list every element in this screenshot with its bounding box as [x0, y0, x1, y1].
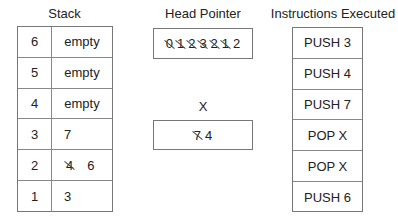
struck-value: 1 [222, 36, 229, 51]
stack-value-overwritten: 4 6 [52, 150, 112, 180]
stack-row: 2 4 6 [18, 150, 112, 181]
stack-row: 6 empty [18, 27, 112, 58]
stack-index: 4 [18, 89, 52, 119]
stack-title: Stack [17, 6, 112, 21]
head-pointer-box: 0 1 2 3 2 1 2 [153, 28, 253, 59]
instruction-row: POP X [293, 120, 362, 151]
current-value: 2 [233, 36, 240, 51]
struck-value: 3 [199, 36, 206, 51]
struck-value: 7 [194, 128, 201, 143]
struck-value: 2 [188, 36, 195, 51]
struck-value: 0 [166, 36, 173, 51]
stack-table: 6 empty 5 empty 4 empty 3 7 2 4 6 1 3 [17, 26, 113, 212]
struck-value: 4 [66, 158, 73, 173]
instruction-row: PUSH 7 [293, 90, 362, 121]
x-register-title: X [153, 99, 253, 114]
instruction-row: PUSH 3 [293, 28, 362, 59]
x-register-box: 7 4 [153, 120, 253, 150]
stack-value: empty [52, 27, 112, 57]
stack-index: 1 [18, 181, 52, 212]
stack-index: 2 [18, 150, 52, 180]
struck-value: 1 [177, 36, 184, 51]
stack-value: empty [52, 89, 112, 119]
instruction-row: PUSH 6 [293, 182, 362, 213]
stack-row: 5 empty [18, 58, 112, 89]
stack-value: 7 [52, 119, 112, 149]
stack-row: 4 empty [18, 89, 112, 120]
stack-value: 3 [52, 181, 112, 212]
instructions-title: Instructions Executed [270, 6, 396, 21]
stack-row: 3 7 [18, 119, 112, 150]
struck-value: 2 [211, 36, 218, 51]
stack-index: 5 [18, 58, 52, 88]
stack-value: empty [52, 58, 112, 88]
stack-row: 1 3 [18, 181, 112, 212]
stack-index: 3 [18, 119, 52, 149]
instruction-row: POP X [293, 151, 362, 182]
stack-index: 6 [18, 27, 52, 57]
current-value: 4 [205, 128, 212, 143]
instruction-row: PUSH 4 [293, 59, 362, 90]
head-pointer-title: Head Pointer [153, 6, 253, 21]
current-value: 6 [87, 158, 94, 173]
instructions-table: PUSH 3 PUSH 4 PUSH 7 POP X POP X PUSH 6 [292, 27, 363, 212]
